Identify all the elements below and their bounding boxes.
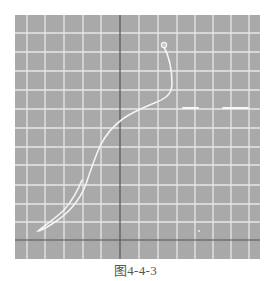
oscilloscope-plot xyxy=(0,0,271,281)
figure-caption: 图4-4-3 xyxy=(0,260,271,279)
trace-start-marker xyxy=(161,42,166,47)
stray-dot xyxy=(198,230,200,232)
